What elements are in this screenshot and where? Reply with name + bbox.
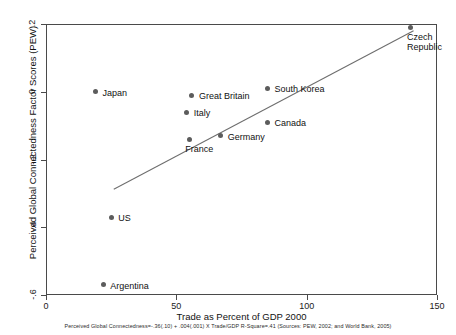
data-point-marker — [187, 137, 192, 142]
y-tick-label: -.6 — [26, 290, 40, 299]
x-tick-mark — [176, 295, 177, 300]
data-point-label: Great Britain — [199, 91, 250, 101]
data-point-label: Japan — [103, 88, 128, 98]
data-point-label: France — [185, 144, 213, 154]
y-tick-mark — [41, 227, 46, 228]
y-tick-label: 0 — [26, 87, 40, 96]
x-tick-label: 100 — [294, 301, 320, 311]
data-point-label: US — [118, 213, 131, 223]
y-tick-mark — [41, 24, 46, 25]
scatter-plot-figure: Perceived Global Connectedness Factor Sc… — [0, 0, 456, 335]
x-tick-label: 0 — [33, 301, 59, 311]
y-tick-label: -.4 — [26, 222, 40, 231]
x-tick-mark — [46, 295, 47, 300]
x-tick-mark — [307, 295, 308, 300]
data-point-label: Germany — [228, 132, 265, 142]
plot-area — [46, 24, 437, 295]
x-tick-label: 150 — [424, 301, 450, 311]
data-point-marker — [109, 215, 114, 220]
data-point-marker — [265, 86, 270, 91]
y-tick-label: .2 — [26, 19, 40, 28]
model-annotation: Perceived Global Connectedness=-.36(.10)… — [0, 323, 456, 330]
y-tick-mark — [41, 160, 46, 161]
y-tick-label: -.2 — [26, 155, 40, 164]
x-axis-title: Trade as Percent of GDP 2000 — [46, 311, 437, 322]
data-point-label: South Korea — [275, 84, 325, 94]
data-point-label: Canada — [275, 118, 307, 128]
y-tick-mark — [41, 92, 46, 93]
data-point-marker — [184, 110, 189, 115]
data-point-marker — [265, 120, 270, 125]
data-point-label: Italy — [194, 108, 211, 118]
data-point-label: Argentina — [110, 281, 149, 291]
data-point-label: Czech Republic — [407, 32, 442, 52]
x-tick-label: 50 — [163, 301, 189, 311]
x-tick-mark — [437, 295, 438, 300]
